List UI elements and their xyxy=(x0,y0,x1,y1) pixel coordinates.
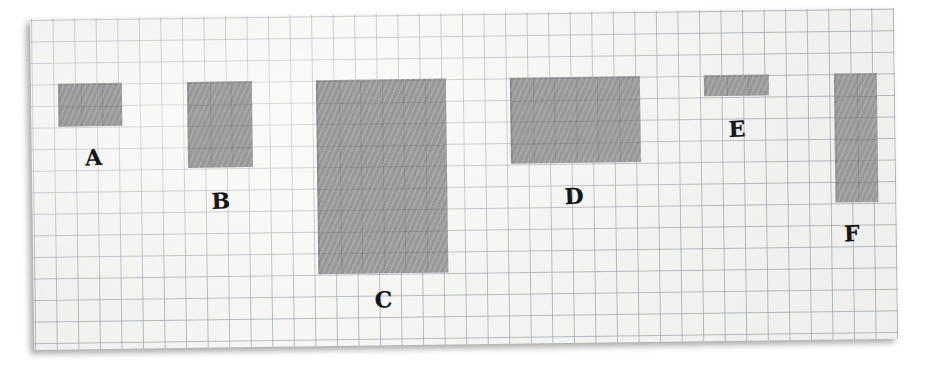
bar-label-e: E xyxy=(728,117,746,140)
bar-c xyxy=(316,78,448,274)
bar-label-c: C xyxy=(374,288,393,311)
bar-label-a: A xyxy=(84,146,102,169)
bar-d xyxy=(510,76,640,164)
bar-label-d: D xyxy=(564,185,584,208)
paper-texture-overlay xyxy=(30,8,898,350)
photo-of-graph-paper: A B C D E F xyxy=(0,0,925,382)
bar-label-f: F xyxy=(843,222,860,245)
graph-paper-grid: A B C D E F xyxy=(30,8,898,350)
bar-f xyxy=(833,73,878,203)
bar-a xyxy=(57,82,122,126)
bar-e xyxy=(704,74,769,96)
bar-b xyxy=(187,81,253,168)
paper-sheet: A B C D E F xyxy=(30,8,898,350)
bar-label-b: B xyxy=(211,189,231,212)
